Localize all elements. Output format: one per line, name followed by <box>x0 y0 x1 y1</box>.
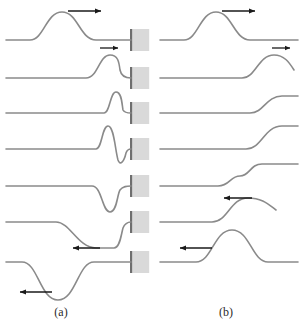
panel-a-rope-group <box>6 12 131 300</box>
rope-pulse-row-6 <box>160 198 276 222</box>
panel-b-caption: (b) <box>219 305 233 319</box>
rope-pulse-row-6 <box>6 222 131 248</box>
rope-pulse-row-2 <box>160 55 294 78</box>
panel-b-rope-group <box>160 12 298 262</box>
rope-pulse-row-1 <box>160 12 298 40</box>
wall-block <box>132 251 149 273</box>
rope-pulse-row-2 <box>6 55 131 78</box>
wave-reflection-figure: (a) (b) <box>0 0 304 329</box>
rope-pulse-row-5 <box>6 186 131 212</box>
panel-a-arrow-group <box>20 11 118 292</box>
wall-block <box>132 138 149 160</box>
rope-pulse-row-7 <box>160 230 298 262</box>
wall-block <box>132 175 149 197</box>
wall-block <box>132 67 149 89</box>
panel-b: (b) <box>160 11 298 319</box>
wall-block <box>132 211 149 233</box>
panel-b-arrow-group <box>180 11 290 248</box>
rope-pulse-row-5 <box>160 164 298 186</box>
rope-pulse-row-4 <box>6 126 131 163</box>
panel-a: (a) <box>6 11 149 319</box>
panel-a-wall-group <box>130 29 149 273</box>
panel-a-caption: (a) <box>54 305 67 319</box>
rope-pulse-row-3 <box>6 92 131 113</box>
rope-pulse-row-3 <box>160 96 298 113</box>
rope-pulse-row-7 <box>6 262 131 300</box>
figure-canvas: (a) (b) <box>0 0 304 329</box>
wall-block <box>132 102 149 124</box>
rope-pulse-row-1 <box>6 12 131 40</box>
wall-block <box>132 29 149 51</box>
rope-pulse-row-4 <box>160 126 298 149</box>
